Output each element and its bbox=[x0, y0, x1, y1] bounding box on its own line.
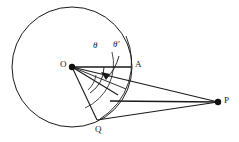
sweep-arc-minor bbox=[85, 52, 114, 108]
angle-arc-theta bbox=[90, 67, 104, 93]
geometry-figure: O A Q P θ θ′ bbox=[0, 0, 239, 142]
point-label-a: A bbox=[135, 60, 142, 69]
segment-q-p bbox=[97, 102, 218, 120]
geometry-canvas bbox=[0, 0, 239, 142]
point-label-q: Q bbox=[95, 125, 102, 134]
angle-label-theta: θ bbox=[93, 41, 97, 50]
segment-o-p bbox=[72, 67, 218, 102]
point-marker-p bbox=[215, 99, 221, 105]
point-marker-o bbox=[69, 64, 75, 70]
segment-interior-p bbox=[110, 101, 218, 102]
point-label-p: P bbox=[224, 96, 229, 105]
angle-label-theta-prime: θ′ bbox=[113, 40, 119, 49]
point-label-o: O bbox=[60, 60, 67, 69]
